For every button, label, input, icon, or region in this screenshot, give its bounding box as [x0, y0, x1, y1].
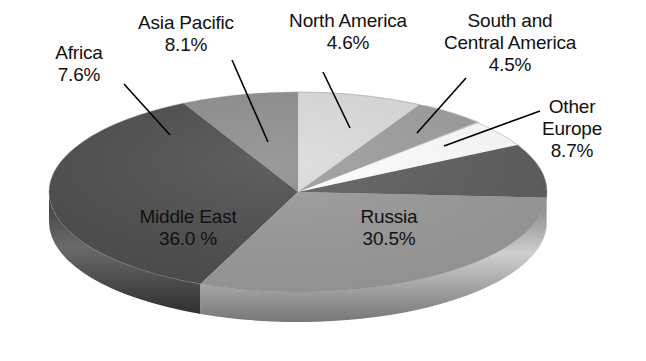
- slice-label-russia: Russia 30.5%: [316, 206, 462, 250]
- slice-label-middle-east-name: Middle East: [104, 206, 272, 228]
- slice-label-asia-pacific: Asia Pacific 8.1%: [116, 12, 256, 56]
- slice-label-russia-name: Russia: [316, 206, 462, 228]
- pie-sheen-overlay: [49, 92, 547, 292]
- slice-label-north-america-name: North America: [272, 10, 424, 32]
- slice-label-north-america-value: 4.6%: [272, 32, 424, 54]
- slice-label-south-central-america-value: 4.5%: [420, 54, 600, 76]
- slice-label-other-europe-name1: Other: [516, 96, 628, 118]
- pie-top-face: [49, 92, 547, 292]
- pie-chart: Africa 7.6% Asia Pacific 8.1% North Amer…: [0, 0, 646, 361]
- slice-label-other-europe-name2: Europe: [516, 118, 628, 140]
- slice-label-south-central-america: South and Central America 4.5%: [420, 10, 600, 76]
- slice-label-asia-pacific-value: 8.1%: [116, 34, 256, 56]
- slice-label-russia-value: 30.5%: [316, 228, 462, 250]
- slice-label-africa-value: 7.6%: [26, 64, 132, 86]
- slice-label-south-central-america-name2: Central America: [420, 32, 600, 54]
- slice-label-other-europe: Other Europe 8.7%: [516, 96, 628, 162]
- slice-label-south-central-america-name1: South and: [420, 10, 600, 32]
- slice-label-asia-pacific-name: Asia Pacific: [116, 12, 256, 34]
- slice-label-middle-east-value: 36.0 %: [104, 228, 272, 250]
- slice-label-other-europe-value: 8.7%: [516, 140, 628, 162]
- slice-label-middle-east: Middle East 36.0 %: [104, 206, 272, 250]
- slice-label-north-america: North America 4.6%: [272, 10, 424, 54]
